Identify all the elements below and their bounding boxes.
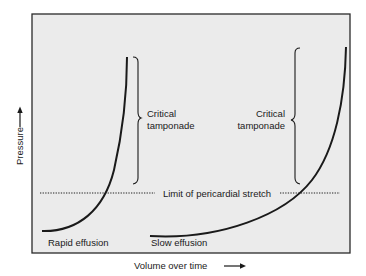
rapid-effusion-label: Rapid effusion: [48, 237, 109, 248]
slow-critical-label-line1: Critical: [256, 108, 285, 119]
y-axis-title: Pressure: [14, 107, 25, 166]
plot-area: [32, 14, 350, 253]
x-axis-title: Volume over time: [134, 260, 246, 271]
slow-critical-label-line2: tamponade: [237, 120, 285, 131]
x-axis-label: Volume over time: [134, 260, 207, 271]
slow-effusion-label: Slow effusion: [151, 237, 207, 248]
x-axis-arrow-icon: [240, 263, 246, 268]
y-axis-label: Pressure: [14, 127, 25, 165]
y-axis-arrow-icon: [17, 107, 22, 114]
rapid-critical-label-line1: Critical: [147, 108, 176, 119]
rapid-critical-label-line2: tamponade: [147, 120, 195, 131]
limit-line-label: Limit of pericardial stretch: [163, 188, 271, 199]
pressure-volume-diagram: Limit of pericardial stretch Critical ta…: [0, 0, 366, 276]
